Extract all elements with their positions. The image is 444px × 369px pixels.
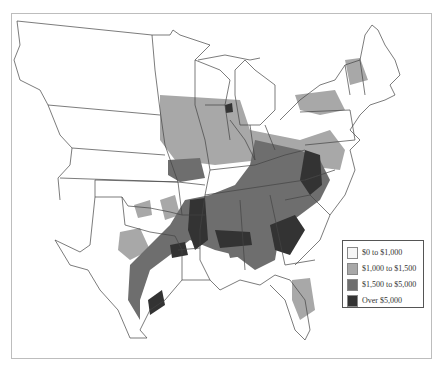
legend-item-1000-1500: $1,000 to $1,500 [347, 261, 419, 276]
legend-label: $1,000 to $1,500 [362, 264, 416, 273]
legend-swatch [347, 247, 358, 259]
legend-label: $0 to $1,000 [362, 248, 402, 257]
legend-item-0-1000: $0 to $1,000 [347, 245, 419, 260]
outline-sd-ne [48, 105, 160, 115]
legend-label: $1,500 to $5,000 [362, 280, 416, 289]
outline-gulf [182, 275, 310, 340]
legend-swatch [347, 279, 358, 291]
choropleth-map [0, 0, 444, 369]
outline-mn [152, 30, 210, 105]
legend: $0 to $1,000 $1,000 to $1,500 $1,500 to … [342, 240, 424, 308]
outline-north-dakota-montana [17, 21, 155, 70]
outline-west-coast [14, 21, 72, 200]
legend-item-1500-5000: $1,500 to $5,000 [347, 277, 419, 292]
legend-item-over-5000: Over $5,000 [347, 293, 419, 308]
outline-upper-mi [198, 55, 260, 60]
legend-swatch [347, 263, 358, 275]
outline-ne-ks [72, 148, 165, 155]
legend-label: Over $5,000 [362, 296, 402, 305]
legend-swatch [347, 295, 358, 307]
outline-texas [55, 197, 182, 338]
